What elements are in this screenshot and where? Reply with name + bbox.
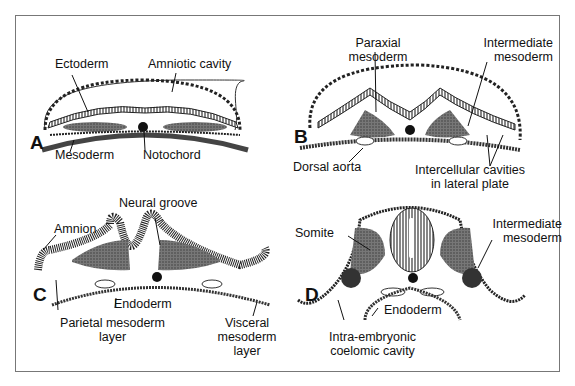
label-coelom-line2: coelomic cavity [320, 344, 425, 358]
label-parietal-line1: Parietal mesoderm [55, 316, 170, 330]
label-ectoderm: Ectoderm [55, 57, 109, 71]
panel-a-drawing [42, 73, 248, 152]
label-neural-groove: Neural groove [119, 196, 198, 210]
label-visceral-mesoderm: Visceral mesoderm layer [212, 316, 282, 358]
label-endoderm-c: Endoderm [114, 297, 172, 311]
label-paraxial-line1: Paraxial [343, 36, 413, 50]
panel-b-drawing [300, 52, 520, 166]
label-parietal-line2: layer [55, 330, 170, 344]
label-coelom-line1: Intra-embryonic [320, 330, 425, 344]
label-intercellular-line2: in lateral plate [405, 177, 535, 191]
label-parietal-mesoderm: Parietal mesoderm layer [55, 316, 170, 344]
label-intermediate-b-line1: Intermediate [448, 36, 553, 50]
label-intermediate-d-line1: Intermediate [472, 217, 562, 231]
label-intercellular-line1: Intercellular cavities [405, 163, 535, 177]
panel-letter-c: C [33, 284, 47, 306]
panel-letter-b: B [294, 126, 308, 148]
label-visceral-line2: mesoderm [212, 330, 282, 344]
label-dorsal-aorta: Dorsal aorta [293, 160, 361, 174]
label-intermediate-d-line2: mesoderm [472, 231, 562, 245]
label-amnion: Amnion [54, 222, 96, 236]
label-somite: Somite [295, 226, 334, 240]
label-mesoderm: Mesoderm [55, 148, 114, 162]
label-notochord: Notochord [143, 148, 201, 162]
label-paraxial-line2: mesoderm [343, 50, 413, 64]
label-paraxial-mesoderm: Paraxial mesoderm [343, 36, 413, 64]
label-intermediate-mesoderm-d: Intermediate mesoderm [472, 217, 562, 245]
label-intermediate-b-line2: mesoderm [448, 50, 553, 64]
panel-letter-d: D [305, 284, 319, 306]
label-intercellular-cavities: Intercellular cavities in lateral plate [405, 163, 535, 191]
label-amniotic-cavity: Amniotic cavity [148, 57, 231, 71]
label-endoderm-d: Endoderm [384, 303, 442, 317]
label-coelomic-cavity: Intra-embryonic coelomic cavity [320, 330, 425, 358]
label-visceral-line3: layer [212, 344, 282, 358]
label-intermediate-mesoderm-b: Intermediate mesoderm [448, 36, 553, 64]
label-visceral-line1: Visceral [212, 316, 282, 330]
panel-letter-a: A [30, 132, 44, 154]
